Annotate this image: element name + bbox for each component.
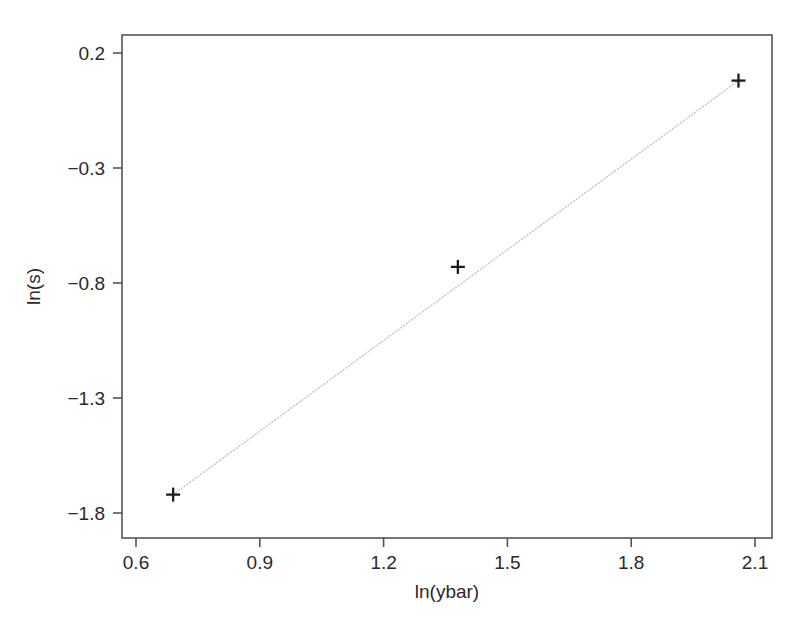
y-axis-title: ln(s) [23,268,44,305]
x-tick-label: 0.9 [247,552,273,573]
x-axis-title: ln(ybar) [415,581,479,602]
x-tick-label: 1.8 [618,552,644,573]
x-tick-label: 2.1 [742,552,768,573]
scatter-plot-figure: 0.60.91.21.51.82.10.2−0.3−0.8−1.3−1.8ln(… [0,0,808,624]
x-tick-label: 1.5 [494,552,520,573]
y-tick-label: 0.2 [79,43,105,64]
x-tick-label: 1.2 [370,552,396,573]
y-tick-label: −1.3 [67,388,105,409]
plot-canvas: 0.60.91.21.51.82.10.2−0.3−0.8−1.3−1.8ln(… [0,0,808,624]
y-tick-label: −1.8 [67,503,105,524]
y-tick-label: −0.8 [67,273,105,294]
x-tick-label: 0.6 [123,552,149,573]
y-tick-label: −0.3 [67,158,105,179]
